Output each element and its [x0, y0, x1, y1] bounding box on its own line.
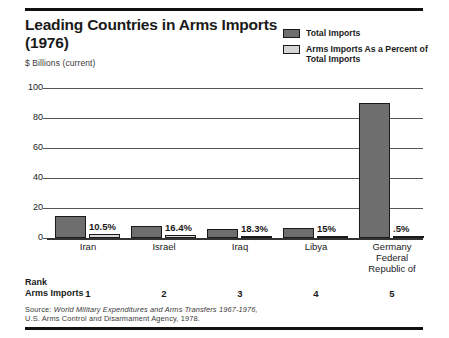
percent-data-label: 15% [317, 223, 336, 234]
percent-data-label: .5% [393, 223, 409, 234]
x-axis-category-label: Libya [273, 241, 359, 252]
legend-item-arms-percent: Arms Imports As a Percent of Total Impor… [283, 44, 443, 65]
bar-total-imports [131, 226, 162, 238]
rank-value: 4 [273, 288, 359, 299]
bar-arms-percent [393, 236, 424, 238]
page-title: Leading Countries in Arms Imports (1976) [25, 16, 295, 52]
rank-value: 5 [349, 288, 435, 299]
x-axis-tick-label: Germany [349, 241, 435, 252]
x-axis-category-label: GermanyFederalRepublic of [349, 241, 435, 274]
x-axis-category-label: Iran [45, 241, 131, 252]
percent-data-label: 10.5% [89, 221, 116, 232]
axis-units-subtitle: $ Billions (current) [25, 58, 96, 68]
source-agency: U.S. Arms Control and Disarmament Agency… [25, 314, 200, 323]
y-axis-tick-mark [43, 238, 47, 239]
y-axis-tick-mark [43, 88, 47, 89]
x-axis-tick-label: Iran [45, 241, 131, 252]
percent-data-label: 16.4% [165, 222, 192, 233]
x-axis-category-label: Iraq [197, 241, 283, 252]
x-axis-tick-label: Libya [273, 241, 359, 252]
percent-data-label: 18.3% [241, 223, 268, 234]
bar-group: 10.5% [55, 88, 121, 238]
bar-total-imports [359, 103, 390, 238]
y-axis-tick-label: 40 [33, 172, 43, 182]
legend-label: Total Imports [306, 28, 360, 39]
legend: Total Imports Arms Imports As a Percent … [283, 28, 443, 70]
bar-group: 15% [283, 88, 349, 238]
x-axis-category-label: Israel [121, 241, 207, 252]
x-axis-baseline [47, 238, 423, 240]
bar-group: .5% [359, 88, 425, 238]
y-axis-tick-label: 60 [33, 142, 43, 152]
plot-area: 02040608010010.5%16.4%18.3%15%.5% [47, 88, 423, 238]
top-rule [25, 8, 423, 11]
y-axis-tick-mark [43, 118, 47, 119]
bottom-rule [25, 327, 423, 330]
legend-swatch-light-icon [283, 45, 300, 54]
bar-arms-percent [165, 235, 196, 238]
legend-item-total-imports: Total Imports [283, 28, 443, 39]
rank-value: 3 [197, 288, 283, 299]
rank-value: 1 [45, 288, 131, 299]
bar-total-imports [207, 229, 238, 238]
bar-arms-percent [241, 236, 272, 238]
rank-header-line1: Rank [25, 277, 84, 288]
x-axis-tick-label: Republic of [349, 263, 435, 274]
y-axis-tick-mark [43, 208, 47, 209]
rank-value: 2 [121, 288, 207, 299]
legend-swatch-dark-icon [283, 29, 300, 38]
legend-label: Arms Imports As a Percent of Total Impor… [306, 44, 443, 65]
x-axis-tick-label: Federal [349, 252, 435, 263]
bar-arms-percent [317, 236, 348, 238]
bar-arms-percent [89, 234, 120, 238]
chart-page: Leading Countries in Arms Imports (1976)… [0, 0, 449, 338]
source-title: World Military Expenditures and Arms Tra… [54, 305, 258, 314]
x-axis-tick-label: Israel [121, 241, 207, 252]
bar-total-imports [55, 216, 86, 239]
y-axis-tick-label: 80 [33, 112, 43, 122]
y-axis-tick-mark [43, 178, 47, 179]
bar-group: 18.3% [207, 88, 273, 238]
x-axis-tick-label: Iraq [197, 241, 283, 252]
source-prefix: Source: [25, 305, 52, 314]
bar-total-imports [283, 228, 314, 239]
y-axis-tick-label: 100 [28, 82, 43, 92]
y-axis-tick-mark [43, 148, 47, 149]
source-note: Source: World Military Expenditures and … [25, 305, 355, 323]
y-axis-tick-label: 20 [33, 202, 43, 212]
y-axis-tick-label: 0 [38, 232, 43, 242]
bar-group: 16.4% [131, 88, 197, 238]
